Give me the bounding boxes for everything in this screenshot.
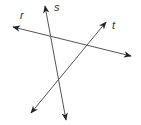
line-s xyxy=(45,6,66,120)
label-s: s xyxy=(54,1,60,13)
label-t: t xyxy=(112,19,116,31)
lines-diagram: r s t xyxy=(0,0,141,125)
line-r xyxy=(13,27,131,56)
line-t xyxy=(31,22,106,113)
label-r: r xyxy=(20,9,25,21)
